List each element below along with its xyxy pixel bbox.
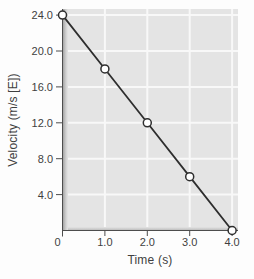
data-point xyxy=(228,227,236,235)
x-tick-label: 1.0 xyxy=(97,236,112,248)
data-point xyxy=(186,173,194,181)
velocity-time-graph: 4.08.012.016.020.024.001.02.03.04.0 Time… xyxy=(0,0,254,279)
x-tick-label: 3.0 xyxy=(182,236,197,248)
chart-canvas: 4.08.012.016.020.024.001.02.03.04.0 xyxy=(0,0,254,279)
x-axis-title: Time (s) xyxy=(62,253,238,267)
data-point xyxy=(143,119,151,127)
y-tick-label: 4.0 xyxy=(38,189,53,201)
data-point xyxy=(59,11,67,19)
y-tick-label: 20.0 xyxy=(32,45,53,57)
x-tick-label: 4.0 xyxy=(224,236,239,248)
data-point xyxy=(101,65,109,73)
y-tick-label: 16.0 xyxy=(32,81,53,93)
x-tick-label: 2.0 xyxy=(140,236,155,248)
y-tick-label: 8.0 xyxy=(38,153,53,165)
y-tick-label: 12.0 xyxy=(32,117,53,129)
origin-tick-label: 0 xyxy=(54,236,60,248)
y-tick-label: 24.0 xyxy=(32,9,53,21)
y-axis-title: Velocity (m/s [E]) xyxy=(6,9,22,231)
